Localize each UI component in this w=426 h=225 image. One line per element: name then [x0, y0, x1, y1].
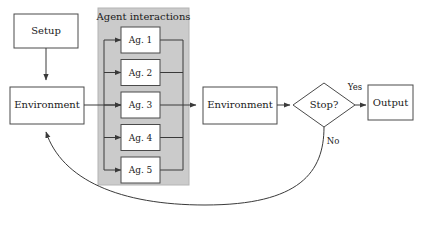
environment-right-label: Environment [207, 99, 273, 110]
agent-box-4-label: Ag. 4 [128, 133, 153, 143]
agent-box-2-label: Ag. 2 [128, 68, 153, 78]
agent-box-1-label: Ag. 1 [128, 35, 153, 45]
edge-label-no: No [327, 136, 340, 146]
agent-box-5-label: Ag. 5 [128, 165, 153, 175]
flowchart-canvas: Agent interactions Ag. 1 Ag. 2 Ag. 3 Ag.… [0, 0, 426, 225]
flowchart-diagram: Agent interactions Ag. 1 Ag. 2 Ag. 3 Ag.… [0, 0, 426, 225]
agent-interactions-title: Agent interactions [96, 11, 191, 22]
setup-box-label: Setup [31, 25, 61, 36]
output-box-label: Output [373, 97, 409, 108]
environment-left-label: Environment [14, 99, 80, 110]
stop-decision-label: Stop? [310, 99, 339, 110]
agent-box-3-label: Ag. 3 [128, 100, 153, 110]
edge-label-yes: Yes [347, 82, 362, 92]
